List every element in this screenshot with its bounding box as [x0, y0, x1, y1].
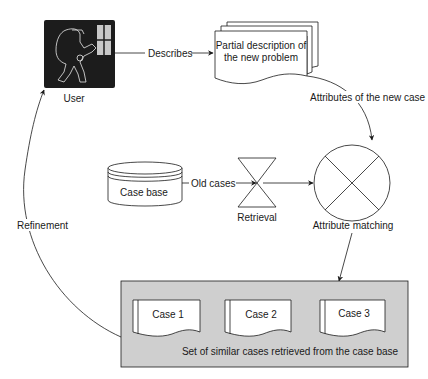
retrieval-node — [238, 158, 276, 207]
case-3-label: Case 3 — [338, 308, 370, 319]
similar-cases-caption: Set of similar cases retrieved from the … — [182, 346, 399, 357]
case-base-label: Case base — [120, 187, 168, 198]
problem-description-label-1: Partial description of — [216, 40, 307, 51]
window-icon — [97, 25, 111, 55]
refinement-label: Refinement — [17, 220, 68, 231]
describes-label: Describes — [148, 48, 192, 59]
problem-description-label-2: the new problem — [224, 52, 298, 63]
attribute-matching-node — [314, 145, 390, 221]
retrieval-label: Retrieval — [237, 212, 276, 223]
attributes-label: Attributes of the new case — [310, 92, 426, 103]
attributes-edge — [307, 76, 372, 140]
case-2-label: Case 2 — [245, 309, 277, 320]
old-cases-label: Old cases — [191, 178, 235, 189]
case-base-node — [108, 162, 182, 206]
case-1-label: Case 1 — [152, 309, 184, 320]
user-label: User — [63, 93, 85, 104]
attribute-matching-label: Attribute matching — [313, 220, 394, 231]
user-node — [44, 20, 115, 88]
cbr-diagram: User Describes Partial description of th… — [0, 0, 428, 379]
refinement-edge — [24, 90, 121, 337]
matching-to-results-arrow — [339, 233, 352, 281]
